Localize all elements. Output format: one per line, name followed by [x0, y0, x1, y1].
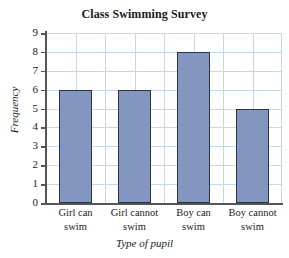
gridline-vertical	[223, 33, 224, 203]
y-axis-tick-label: 1	[16, 178, 38, 189]
y-axis-tick-label: 0	[16, 197, 38, 208]
y-axis-tick-mark	[41, 109, 46, 111]
chart-title: Class Swimming Survey	[0, 7, 289, 22]
y-axis-tick-mark	[41, 203, 46, 205]
x-axis-label-line: Boy cannot	[217, 206, 288, 220]
x-axis-label-line: swim	[217, 220, 288, 234]
x-axis-category-label: Boy cannotswim	[217, 206, 288, 234]
y-axis-tick-label: 2	[16, 159, 38, 170]
y-axis-tick-mark	[41, 127, 46, 129]
plot-area	[46, 33, 282, 203]
y-axis-tick-mark	[41, 146, 46, 148]
gridline-vertical	[105, 33, 106, 203]
y-axis-title: Frequency	[8, 60, 20, 160]
y-axis-line	[45, 31, 47, 205]
plot-right-border	[281, 33, 282, 203]
y-axis-tick-label: 9	[16, 27, 38, 38]
bar	[236, 109, 270, 203]
y-axis-tick-mark	[41, 52, 46, 54]
y-axis-tick-label: 8	[16, 46, 38, 57]
y-axis-tick-mark	[41, 71, 46, 73]
bar-chart: Class Swimming Survey 0123456789 Girl ca…	[0, 0, 289, 258]
x-axis-title: Type of pupil	[0, 237, 289, 249]
x-axis-line	[41, 203, 283, 205]
y-axis-tick-mark	[41, 165, 46, 167]
bar	[118, 90, 152, 203]
bar	[177, 52, 211, 203]
bar	[59, 90, 93, 203]
y-axis-tick-mark	[41, 33, 46, 35]
y-axis-tick-mark	[41, 184, 46, 186]
y-axis-tick-mark	[41, 90, 46, 92]
gridline-vertical	[164, 33, 165, 203]
